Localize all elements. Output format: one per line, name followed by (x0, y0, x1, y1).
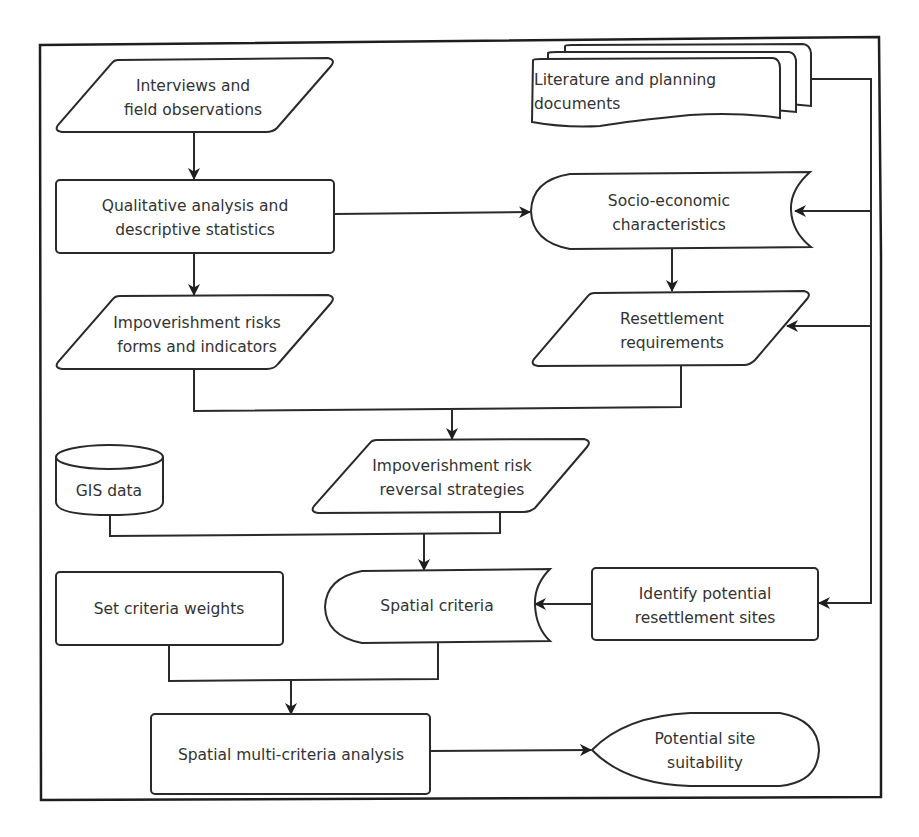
svg-text:Impoverishment risks: Impoverishment risks (113, 314, 281, 332)
node-identify-line2: resettlement sites (635, 609, 776, 627)
svg-text:GIS data: GIS data (76, 482, 142, 500)
flowchart-diagram: Interviews and field observations Qualit… (0, 0, 919, 837)
svg-text:Resettlement: Resettlement (620, 310, 724, 328)
node-qualitative (56, 180, 334, 253)
svg-text:Qualitative analysis and: Qualitative analysis and (102, 197, 289, 215)
node-weights-label: Set criteria weights (94, 600, 245, 618)
svg-text:requirements: requirements (620, 334, 724, 352)
node-qualitative-line2: descriptive statistics (115, 221, 275, 239)
svg-text:Potential site: Potential site (655, 730, 756, 748)
edge-qualitative-socio (334, 212, 530, 214)
svg-text:Spatial criteria: Spatial criteria (380, 597, 493, 615)
node-spatial-criteria: Spatial criteria (325, 569, 550, 643)
outer-frame (40, 37, 881, 800)
node-socio-economic: Socio-economic characteristics (531, 172, 811, 249)
svg-text:Impoverishment risk: Impoverishment risk (372, 457, 531, 475)
svg-text:suitability: suitability (667, 754, 743, 772)
svg-text:Set criteria weights: Set criteria weights (94, 600, 245, 618)
edge-merge-reversal (194, 365, 681, 411)
svg-text:Identify potential: Identify potential (639, 585, 771, 603)
edge-merge-smca (169, 643, 438, 681)
node-suitability: Potential site suitability (592, 713, 819, 786)
node-identify-sites (592, 568, 818, 640)
svg-text:characteristics: characteristics (612, 216, 726, 234)
edge-merge-spatial (110, 512, 500, 536)
svg-text:reversal strategies: reversal strategies (380, 481, 525, 499)
node-identify-line1: Identify potential (639, 585, 771, 603)
svg-text:Spatial multi-criteria analysi: Spatial multi-criteria analysis (178, 746, 404, 764)
node-resettlement-req: Resettlement requirements (533, 291, 809, 366)
node-gis: GIS data (56, 445, 163, 515)
node-smca-label: Spatial multi-criteria analysis (178, 746, 404, 764)
svg-text:forms and indicators: forms and indicators (117, 338, 277, 356)
svg-text:documents: documents (534, 95, 620, 113)
svg-text:field observations: field observations (124, 101, 262, 119)
svg-text:Socio-economic: Socio-economic (608, 192, 730, 210)
svg-text:Literature and planning: Literature and planning (534, 71, 716, 89)
node-interviews: Interviews and field observations (57, 58, 333, 132)
node-reversal: Impoverishment risk reversal strategies (313, 439, 589, 513)
node-qualitative-line1: Qualitative analysis and (102, 197, 289, 215)
svg-text:descriptive statistics: descriptive statistics (115, 221, 275, 239)
node-literature: Literature and planning documents (532, 44, 811, 127)
edge-smca-suitability (430, 750, 591, 751)
svg-text:Interviews and: Interviews and (136, 77, 250, 95)
node-risks-forms: Impoverishment risks forms and indicator… (57, 295, 333, 369)
edge-literature-bus (811, 79, 871, 603)
svg-text:resettlement sites: resettlement sites (635, 609, 776, 627)
